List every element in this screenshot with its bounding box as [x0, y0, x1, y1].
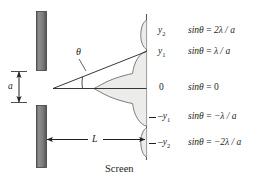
- screen-position-label-y1-neg: –y1: [158, 112, 170, 123]
- equation-lhs: sinθ: [188, 111, 204, 121]
- equation-y2-pos: sinθ = 2λ / a: [188, 26, 235, 36]
- y-subscript: 2: [167, 142, 170, 149]
- equation-rhs: 2λ / a: [214, 25, 235, 35]
- theta-angle-marker: [79, 59, 86, 89]
- single-slit-diffraction-figure: y2 sinθ = 2λ / a y1 sinθ = λ / a 0 sinθ …: [0, 0, 260, 184]
- equation-lhs: sinθ: [188, 82, 204, 92]
- distance-L-label: L: [92, 134, 98, 144]
- equation-rhs: −2λ / a: [214, 137, 241, 147]
- equation-rhs: −λ / a: [214, 111, 237, 121]
- y-symbol: 0: [159, 82, 164, 92]
- screen-position-label-y2-neg: –y2: [158, 138, 170, 149]
- slit-barrier-top: [37, 12, 47, 71]
- y-subscript: 1: [162, 51, 165, 58]
- equation-y1-pos: sinθ = λ / a: [188, 47, 230, 57]
- equation-rhs: 0: [214, 82, 219, 92]
- slit-width-dimension: [11, 72, 27, 103]
- screen-position-label-center: 0: [159, 83, 164, 93]
- equation-lhs: sinθ: [188, 46, 204, 56]
- screen-tick-marks: [149, 118, 156, 144]
- equation-lhs: sinθ: [188, 137, 204, 147]
- screen-position-label-y1-pos: y1: [158, 47, 165, 58]
- screen-label: Screen: [105, 164, 134, 175]
- equation-rhs: λ / a: [214, 46, 230, 56]
- slit-barrier-bottom: [37, 106, 47, 168]
- y-subscript: 2: [162, 30, 165, 37]
- equation-y2-neg: sinθ = −2λ / a: [188, 138, 241, 148]
- angle-theta-label: θ: [76, 47, 81, 57]
- equation-center: sinθ = 0: [188, 83, 219, 93]
- equation-lhs: sinθ: [188, 25, 204, 35]
- slit-width-label: a: [8, 82, 13, 92]
- y-subscript: 1: [167, 116, 170, 123]
- equation-y1-neg: sinθ = −λ / a: [188, 112, 237, 122]
- screen-position-label-y2-pos: y2: [158, 26, 165, 37]
